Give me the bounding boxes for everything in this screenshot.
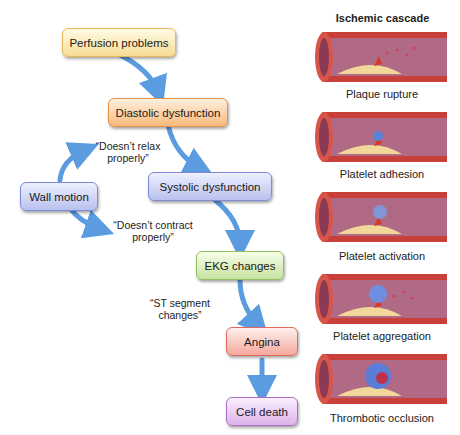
node-ekg-changes: EKG changes <box>196 251 284 280</box>
annotation-line: “Doesn’t relax <box>88 140 168 152</box>
arrow-ekg-to-angina <box>240 280 258 325</box>
stage-label: Platelet aggregation <box>312 330 452 342</box>
cascade-title: Ischemic cascade <box>315 12 450 24</box>
stage-label: Platelet activation <box>312 250 452 262</box>
stage-label: Platelet adhesion <box>312 168 452 180</box>
node-label: Cell death <box>236 406 288 418</box>
vessel-platelet-aggregation-icon <box>312 270 452 328</box>
annotation-doesnt-relax: “Doesn’t relax properly” <box>88 140 168 164</box>
arrow-systolic-to-ekg <box>215 200 240 245</box>
flow-arrows <box>0 0 310 435</box>
arrow-diastolic-to-systolic <box>168 125 200 168</box>
node-label: Perfusion problems <box>69 37 168 49</box>
arrow-wall-to-relax <box>60 150 85 180</box>
node-cell-death: Cell death <box>226 397 298 426</box>
arrow-wall-to-contract <box>70 208 100 229</box>
node-angina: Angina <box>226 327 298 356</box>
annotation-doesnt-contract: “Doesn’t contract properly” <box>108 219 198 243</box>
vessel-platelet-activation-icon <box>312 188 452 246</box>
vessel-platelet-adhesion-icon <box>312 108 452 166</box>
annotation-st-segment: “ST segment changes” <box>145 297 215 321</box>
node-perfusion-problems: Perfusion problems <box>62 28 176 57</box>
annotation-line: properly” <box>108 231 198 243</box>
node-label: Angina <box>244 336 280 348</box>
node-label: EKG changes <box>205 260 276 272</box>
vessel-thrombotic-occlusion-icon <box>312 350 452 408</box>
arrow-perfusion-to-diastolic <box>120 55 158 92</box>
node-label: Systolic dysfunction <box>160 181 261 193</box>
stage-label: Thrombotic occlusion <box>312 412 452 424</box>
vessel-plaque-rupture-icon <box>312 28 452 86</box>
annotation-line: “ST segment <box>145 297 215 309</box>
stage-label: Plaque rupture <box>312 88 452 100</box>
node-systolic-dysfunction: Systolic dysfunction <box>148 172 272 201</box>
node-label: Wall motion <box>29 191 89 203</box>
node-wall-motion: Wall motion <box>20 182 98 211</box>
node-label: Diastolic dysfunction <box>116 107 221 119</box>
annotation-line: properly” <box>88 152 168 164</box>
node-diastolic-dysfunction: Diastolic dysfunction <box>108 98 228 127</box>
annotation-line: changes” <box>145 309 215 321</box>
annotation-line: “Doesn’t contract <box>108 219 198 231</box>
